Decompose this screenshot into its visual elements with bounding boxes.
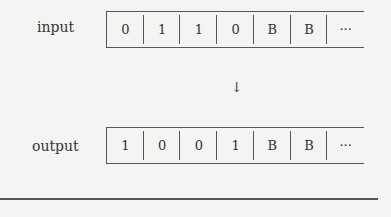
input-label: input: [37, 19, 74, 35]
cell-value: 1: [231, 138, 239, 153]
cell-value: 1: [195, 22, 203, 37]
cell-value: 1: [121, 138, 129, 153]
cell-value: B: [267, 138, 277, 153]
tape-cell: B: [291, 128, 328, 163]
horizontal-rule: [0, 198, 378, 200]
tape-cell: 1: [144, 12, 181, 47]
tape-cell: 0: [144, 128, 181, 163]
cell-value: 0: [121, 22, 129, 37]
cell-value: ···: [339, 22, 351, 37]
cell-value: 0: [158, 138, 166, 153]
tape-cell: 1: [180, 12, 217, 47]
tape-cell-ellipsis: ···: [327, 12, 364, 47]
cell-value: 0: [195, 138, 203, 153]
cell-value: B: [304, 138, 314, 153]
tape-cell: B: [254, 128, 291, 163]
cell-value: B: [304, 22, 314, 37]
cell-value: 1: [158, 22, 166, 37]
down-arrow-icon: ↓: [231, 79, 243, 95]
tape-cell-ellipsis: ···: [327, 128, 364, 163]
tape-cell: 0: [180, 128, 217, 163]
tape-cell: 1: [217, 128, 254, 163]
tape-cell: 0: [217, 12, 254, 47]
cell-value: ···: [339, 138, 351, 153]
tape-cell: 1: [107, 128, 144, 163]
output-tape: 1 0 0 1 B B ···: [106, 127, 364, 164]
input-tape: 0 1 1 0 B B ···: [106, 11, 364, 48]
tape-cell: B: [254, 12, 291, 47]
tape-cell: B: [291, 12, 328, 47]
cell-value: 0: [231, 22, 239, 37]
output-label: output: [32, 138, 79, 154]
cell-value: B: [267, 22, 277, 37]
tape-cell: 0: [107, 12, 144, 47]
